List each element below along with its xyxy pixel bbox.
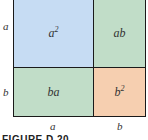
cell-ab-label: ab <box>114 26 126 41</box>
side-label-left-b: b <box>3 86 9 98</box>
cell-b-squared-label: b2 <box>115 84 125 100</box>
figure-caption: FIGURE D.20 <box>2 134 69 140</box>
cell-a-squared-label: a2 <box>49 25 59 41</box>
cell-a-squared: a2 <box>14 0 94 68</box>
cell-ba-label: ba <box>48 85 60 100</box>
side-label-left-a: a <box>3 20 9 32</box>
side-label-bottom-a: a <box>50 120 56 132</box>
side-label-bottom-b: b <box>117 120 123 132</box>
cell-ba: ba <box>14 68 94 116</box>
area-model-square: a2 ab ba b2 <box>13 0 146 117</box>
cell-ab: ab <box>94 0 145 68</box>
cell-b-squared: b2 <box>94 68 145 116</box>
